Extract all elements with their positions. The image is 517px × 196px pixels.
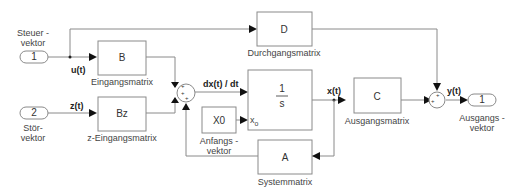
arrowhead [89,109,97,117]
block-C-label: Ausgangsmatrix [345,116,410,126]
signal-label-dx: dx(t) / dt [203,79,239,89]
inport-2-label-line2: vektor [21,133,46,143]
inport-1[interactable]: 1 Steuer - vektor [17,28,49,63]
block-diagram: 1 Steuer - vektor 2 Stör- vektor u(t) z(… [0,0,517,196]
signal-label-x: x(t) [327,86,341,96]
block-X0-text: X0 [213,115,226,126]
wire-Bz-to-sum [146,98,175,113]
outport-1-label-line2: vektor [470,123,495,133]
block-D[interactable]: D Durchgangsmatrix [247,12,321,58]
signal-label-u: u(t) [71,65,86,75]
block-X0[interactable]: X0 Anfangs - vektor [200,107,239,156]
block-C-text: C [373,91,380,102]
integrator-numerator: 1 [279,83,285,94]
block-D-text: D [280,24,287,35]
sum2-sign: + [431,98,435,104]
block-B-text: B [119,52,126,63]
sum-block-1[interactable]: + + + [177,83,195,102]
inport-2-label-line1: Stör- [23,123,43,133]
arrowhead [171,97,179,103]
arrowhead [89,53,97,61]
arrowhead [171,82,179,88]
outport-1-label-line1: Ausgangs - [459,113,505,123]
arrowhead [460,96,468,104]
sum2-sign: + [436,92,440,98]
arrowhead [240,116,248,124]
integrator-denominator: s [280,98,285,109]
inport-1-label-line1: Steuer - [17,28,49,38]
wire-x-to-A [312,100,334,156]
block-Bz[interactable]: Bz z-Eingangsmatrix [87,97,157,143]
block-X0-label-line2: vektor [207,146,232,156]
inport-1-number: 1 [31,51,37,62]
sum-block-2[interactable]: + + [429,92,445,108]
outport-1-number: 1 [479,94,485,105]
inport-2[interactable]: 2 Stör- vektor [20,107,48,143]
block-A-text: A [282,152,289,163]
ic-subscript: o [255,120,259,127]
block-X0-label-line1: Anfangs - [200,136,239,146]
arrowhead [240,88,248,96]
arrowhead [182,103,190,110]
inport-1-label-line2: vektor [21,38,46,48]
block-D-label: Durchgangsmatrix [247,48,321,58]
block-A-label: Systemmatrix [258,177,313,187]
arrowhead [249,25,257,33]
block-Bz-text: Bz [116,108,128,119]
signal-label-z: z(t) [70,101,84,111]
arrowhead [338,96,346,104]
inport-2-number: 2 [31,107,37,118]
block-A[interactable]: A Systemmatrix [258,140,313,187]
sum1-sign: + [181,83,185,89]
block-Bz-label: z-Eingangsmatrix [87,133,157,143]
block-integrator[interactable]: 1 s xo [248,70,312,130]
signal-label-y: y(t) [447,86,461,96]
block-C[interactable]: C Ausgangsmatrix [345,78,410,126]
branch-point-u [69,56,72,59]
arrowhead [312,152,320,160]
sum1-sign: + [185,95,189,101]
arrowhead [433,83,441,91]
block-B[interactable]: B Eingangsmatrix [91,41,154,87]
block-B-label: Eingangsmatrix [91,77,154,87]
